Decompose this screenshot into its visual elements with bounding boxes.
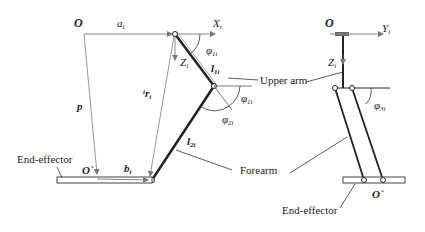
forearm-link bbox=[152, 86, 214, 180]
phi1b-arc bbox=[229, 86, 240, 106]
o-prime-label-right: O` bbox=[372, 188, 384, 200]
x-axis-label: Xi bbox=[212, 17, 222, 31]
z-axis-label: Zi bbox=[180, 56, 188, 70]
phi2-arc bbox=[200, 106, 229, 111]
elbow-joint-1 bbox=[333, 86, 338, 91]
forearm-leader bbox=[176, 150, 232, 170]
end-effector-label: End-effector bbox=[17, 153, 73, 165]
phi3-label: φ3i bbox=[374, 99, 386, 113]
r-label: iri bbox=[143, 87, 151, 101]
upper-arm-leader bbox=[228, 78, 258, 80]
l2-label: l2i bbox=[187, 135, 196, 149]
o-prime-label: O` bbox=[82, 164, 94, 176]
p-vector-line bbox=[84, 34, 97, 174]
upper-arm-label: Upper arm bbox=[260, 74, 308, 86]
end-effector-label-right: End-effector bbox=[282, 204, 338, 216]
forearm-label: Forearm bbox=[240, 164, 278, 176]
r-vector-line bbox=[150, 36, 174, 176]
y-axis-label: Yi bbox=[382, 22, 390, 36]
l1-label: l1i bbox=[211, 62, 220, 76]
phi1-label: φ1i bbox=[206, 44, 218, 58]
left-view: O ai Xi Zi φ1i l1i φ1i φ2i iri p l2i O` … bbox=[17, 16, 308, 183]
end-effector-plate-side bbox=[343, 177, 405, 183]
wrist-joint-2 bbox=[381, 178, 386, 183]
upper-arm-extension bbox=[214, 86, 232, 110]
end-effector-leader-right bbox=[340, 184, 355, 208]
wrist-joint-1 bbox=[362, 178, 367, 183]
origin-label: O bbox=[74, 16, 83, 30]
phi2-label: φ2i bbox=[222, 113, 234, 127]
forearm-rod-1 bbox=[335, 88, 364, 180]
phi1b-label: φ1i bbox=[241, 92, 253, 106]
forearm-leader-right bbox=[290, 137, 347, 173]
phi3-arc bbox=[366, 88, 371, 104]
origin-label-right: O bbox=[325, 16, 334, 30]
p-label: p bbox=[76, 100, 83, 112]
b-label: bi bbox=[124, 162, 132, 176]
end-effector-leader bbox=[57, 167, 62, 178]
right-view: O Yi Zi φ3i O` End-effector bbox=[282, 16, 405, 216]
shoulder-joint bbox=[173, 32, 178, 37]
kinematic-diagram: O ai Xi Zi φ1i l1i φ1i φ2i iri p l2i O` … bbox=[0, 0, 425, 232]
upper-arm-leader-right bbox=[306, 72, 343, 82]
a-label: ai bbox=[117, 17, 125, 31]
elbow-joint-2 bbox=[350, 86, 355, 91]
z-axis-label-right: Zi bbox=[328, 56, 336, 70]
